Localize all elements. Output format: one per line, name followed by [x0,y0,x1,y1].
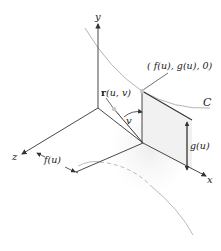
r-label: r(u, v) [101,88,131,98]
x-axis-label: x [207,175,213,185]
f-dimension-arrow-2 [65,167,75,172]
z-axis-label: z [12,152,17,162]
surface-of-revolution-diagram: y x z C ( f(u), g(u), 0) r(u, v) v g(u) … [0,0,221,251]
point-label: ( f(u), g(u), 0) [147,61,212,71]
angle-label: v [126,116,132,126]
y-axis-label: y [95,12,101,22]
z-axis [22,108,98,154]
curve-point [140,89,144,93]
r-args: (u, v) [106,87,131,98]
diagram-canvas [0,0,221,251]
point-leader [143,73,168,90]
curve-c-label: C [203,97,211,108]
revolved-curve-front [78,162,100,167]
r-point [112,107,116,111]
f-label: f(u) [44,155,61,165]
g-label: g(u) [190,141,210,151]
